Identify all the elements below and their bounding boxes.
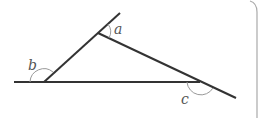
- angle-label-c: c: [181, 91, 189, 107]
- right-side-extended: [98, 33, 236, 98]
- angle-arc-a: [108, 24, 111, 38]
- panel-border: [250, 1, 257, 118]
- diagram-canvas: a b c: [0, 0, 261, 118]
- left-side-extended: [44, 13, 120, 82]
- angle-arc-c: [187, 82, 213, 95]
- angle-label-a: a: [114, 21, 122, 37]
- angle-label-b: b: [28, 57, 37, 73]
